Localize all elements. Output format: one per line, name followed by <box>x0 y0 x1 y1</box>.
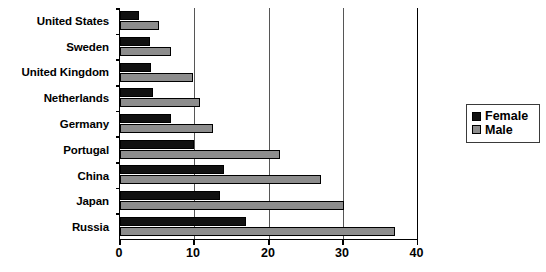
y-tick <box>116 111 120 113</box>
bar-group-netherlands <box>120 85 418 111</box>
category-label: Russia <box>0 214 114 240</box>
bar-female <box>120 11 139 20</box>
x-tick-mark <box>193 240 195 245</box>
x-tick-label: 0 <box>116 246 123 260</box>
bar-male <box>120 73 193 82</box>
category-label: Sweden <box>0 34 114 60</box>
legend-label-female: Female <box>485 110 528 123</box>
legend-label-male: Male <box>485 124 513 137</box>
bar-group-japan <box>120 188 418 214</box>
x-tick-mark <box>268 240 270 245</box>
y-tick <box>116 59 120 61</box>
bar-male <box>120 150 280 159</box>
bar-group-portugal <box>120 136 418 162</box>
bar-female <box>120 165 224 174</box>
bar-male <box>120 98 200 107</box>
bar-female <box>120 114 171 123</box>
bar-male <box>120 201 344 210</box>
legend-item-female: Female <box>472 110 534 123</box>
bar-group-russia <box>120 213 418 239</box>
bar-male <box>120 47 171 56</box>
legend-item-male: Male <box>472 124 534 137</box>
bar-female <box>120 88 153 97</box>
bar-male <box>120 21 159 30</box>
category-label: China <box>0 163 114 189</box>
category-axis-labels: United States Sweden United Kingdom Neth… <box>0 8 114 240</box>
chart-legend: Female Male <box>466 104 540 143</box>
y-tick <box>116 34 120 36</box>
bar-group-united-states <box>120 8 418 34</box>
y-tick <box>116 213 120 215</box>
bar-group-china <box>120 162 418 188</box>
x-tick-label: 30 <box>335 246 349 260</box>
category-label: Japan <box>0 188 114 214</box>
x-tick-mark <box>119 240 121 245</box>
x-tick-mark <box>417 240 419 245</box>
category-label: Portugal <box>0 137 114 163</box>
category-label: United Kingdom <box>0 60 114 86</box>
plot-area <box>119 8 418 240</box>
x-tick-mark <box>342 240 344 245</box>
bar-male <box>120 124 213 133</box>
bar-group-united-kingdom <box>120 59 418 85</box>
y-tick <box>116 8 120 10</box>
bar-group-sweden <box>120 34 418 60</box>
category-label: Netherlands <box>0 85 114 111</box>
bar-female <box>120 140 194 149</box>
y-tick <box>116 188 120 190</box>
legend-swatch-female-icon <box>472 112 481 121</box>
bar-groups <box>120 8 418 239</box>
category-label: Germany <box>0 111 114 137</box>
bar-chart: United States Sweden United Kingdom Neth… <box>0 0 546 272</box>
bar-male <box>120 227 395 236</box>
bar-female <box>120 63 151 72</box>
y-tick <box>116 136 120 138</box>
y-tick <box>116 162 120 164</box>
bar-female <box>120 191 220 200</box>
x-tick-label: 10 <box>186 246 200 260</box>
x-tick-label: 40 <box>410 246 424 260</box>
bar-female <box>120 37 150 46</box>
bar-group-germany <box>120 111 418 137</box>
bar-female <box>120 217 246 226</box>
x-tick-label: 20 <box>261 246 275 260</box>
bar-male <box>120 175 321 184</box>
y-tick <box>116 85 120 87</box>
category-label: United States <box>0 8 114 34</box>
x-axis: 0 10 20 30 40 <box>119 240 418 270</box>
legend-swatch-male-icon <box>472 125 481 134</box>
